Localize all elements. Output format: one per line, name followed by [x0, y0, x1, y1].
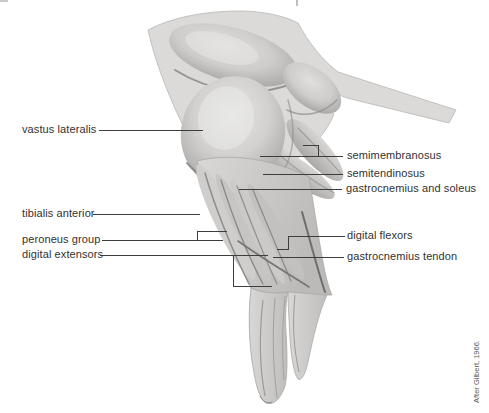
figure-canvas: vastus lateralis tibialis anterior peron…	[0, 0, 489, 413]
label-gastrocnemius-tendon: gastrocnemius tendon	[347, 251, 457, 262]
label-vastus-lateralis: vastus lateralis	[22, 124, 96, 135]
credit-text: After Gilbert, 1966.	[472, 340, 482, 403]
label-digital-flexors: digital flexors	[347, 230, 413, 241]
label-digital-extensors: digital extensors	[22, 249, 103, 260]
label-peroneus-group: peroneus group	[22, 234, 100, 245]
label-tibialis-anterior: tibialis anterior	[22, 208, 95, 219]
label-gastrocnemius-and-soleus: gastrocnemius and soleus	[346, 183, 476, 194]
foot-shape	[249, 288, 327, 404]
label-semimembranosus: semimembranosus	[347, 150, 441, 161]
label-semitendinosus: semitendinosus	[347, 168, 425, 179]
leader-peroneus-group	[102, 231, 227, 240]
crop-artifact-left	[0, 0, 8, 2]
crop-artifact-center	[296, 0, 298, 6]
